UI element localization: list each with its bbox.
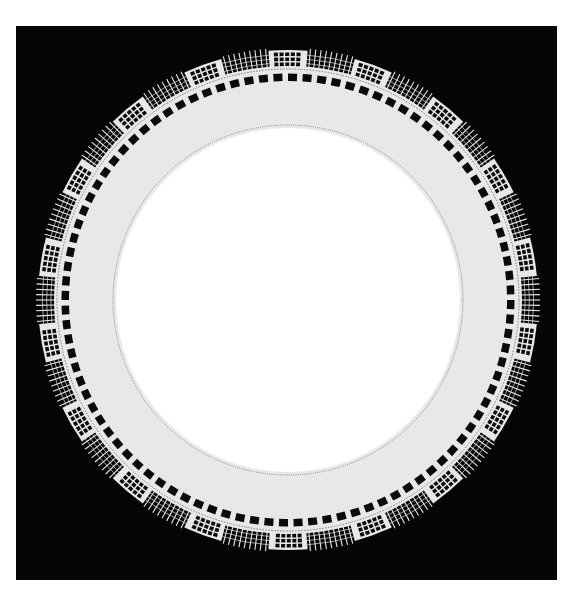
fringe-spike — [250, 51, 253, 71]
fringe-spike — [309, 49, 311, 69]
fringe-spike — [88, 146, 104, 158]
fringe-spike — [37, 284, 57, 285]
fringe-spike — [309, 531, 311, 551]
fringe-spike — [520, 315, 540, 316]
fringe-spike — [319, 50, 322, 70]
fringe-spike — [37, 315, 57, 316]
fringe-spike — [92, 142, 108, 155]
fringe-spike — [323, 529, 326, 549]
fringe-spike — [95, 449, 110, 462]
fringe-spike — [95, 138, 110, 151]
inner-fabric-disc — [116, 128, 460, 472]
fringe-spike — [323, 51, 326, 71]
fringe-spike — [88, 441, 104, 453]
fringe-spike — [37, 320, 57, 322]
fringe-spike — [92, 445, 108, 458]
fringe-spike — [466, 449, 481, 462]
fringe-spike — [36, 310, 56, 311]
fringe-spike — [519, 320, 539, 322]
fringe-spike — [37, 279, 57, 281]
lace-ring — [36, 49, 540, 551]
fringe-spike — [466, 138, 481, 151]
fringe-spike — [472, 146, 488, 158]
fringe-spike — [255, 50, 258, 70]
fringe-spike — [260, 531, 262, 551]
fringe-spike — [520, 310, 540, 311]
fringe-spike — [520, 284, 540, 285]
fringe-spike — [260, 50, 262, 70]
fringe-spike — [255, 530, 258, 550]
fringe-spike — [250, 529, 253, 549]
fringe-spike — [36, 289, 56, 290]
fringe-spike — [319, 530, 322, 550]
fringe-spike — [520, 289, 540, 290]
fringe-spike — [314, 531, 316, 551]
fringe-spike — [469, 142, 485, 155]
fringe-spike — [472, 441, 488, 453]
fringe-spike — [266, 49, 268, 69]
fringe-spike — [519, 279, 539, 281]
fringe-spike — [469, 445, 485, 458]
fringe-spike — [266, 531, 268, 551]
lace-doily — [0, 0, 579, 599]
fringe-spike — [314, 50, 316, 70]
